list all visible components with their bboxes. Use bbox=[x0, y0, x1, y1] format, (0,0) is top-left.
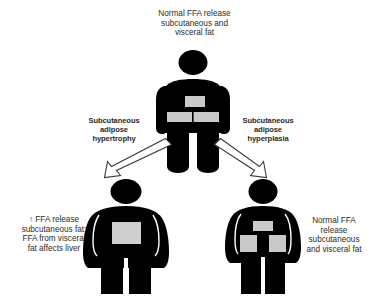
obese-left-leg bbox=[101, 262, 123, 294]
bottom-right-label: Normal FFA release subcutaneous and visc… bbox=[294, 216, 374, 255]
small-visceral-fat-patch bbox=[253, 221, 273, 231]
top-label-line-1: Normal FFA release bbox=[112, 9, 277, 19]
top-label-line-3: visceral fat bbox=[112, 28, 277, 38]
bottom-left-label: ↑ FFA release subcutaneous fat; FFA from… bbox=[2, 215, 106, 254]
bottom-right-line-3: subcutaneous bbox=[294, 235, 374, 245]
bottom-left-line-2: subcutaneous fat; bbox=[2, 225, 106, 235]
overweight-right-leg bbox=[265, 261, 285, 294]
right-subcutaneous-hip-rectangle bbox=[269, 235, 286, 252]
right-branch-label: Subcutaneous adipose hyperplasia bbox=[213, 117, 323, 144]
obese-right-leg bbox=[129, 262, 151, 294]
left-branch-line-3: hypertrophy bbox=[62, 135, 166, 144]
bottom-left-line-1: ↑ FFA release bbox=[2, 215, 106, 225]
bottom-left-line-3: FFA from visceral bbox=[2, 234, 106, 244]
top-label-line-2: subcutaneous and bbox=[112, 19, 277, 29]
obese-head bbox=[111, 179, 142, 204]
left-branch-label: Subcutaneous adipose hypertrophy bbox=[62, 117, 166, 144]
bottom-left-line-4: fat affects liver bbox=[2, 244, 106, 254]
bottom-right-line-2: release bbox=[294, 226, 374, 236]
overweight-left-leg bbox=[241, 261, 261, 294]
obese-leg-gap bbox=[124, 258, 128, 294]
right-branch-line-3: hyperplasia bbox=[213, 135, 323, 144]
overweight-leg-gap bbox=[261, 257, 265, 294]
bottom-right-line-4: and visceral fat bbox=[294, 245, 374, 255]
bottom-right-line-1: Normal FFA bbox=[294, 216, 374, 226]
lean-left-leg bbox=[167, 126, 189, 173]
overweight-torso bbox=[225, 206, 301, 263]
lean-head bbox=[179, 50, 208, 75]
left-subcutaneous-hip-rectangle bbox=[240, 235, 257, 252]
overweight-head bbox=[249, 179, 278, 204]
hip-band-divider bbox=[192, 112, 194, 122]
large-visceral-fat-rectangle bbox=[112, 222, 141, 244]
visceral-fat-patch bbox=[185, 96, 205, 107]
top-label: Normal FFA release subcutaneous and visc… bbox=[112, 9, 277, 38]
